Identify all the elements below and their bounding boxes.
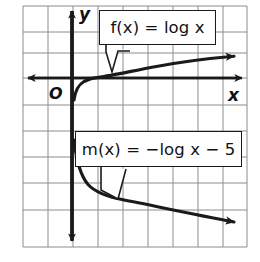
callout-m-of-x: m(x) = −log x − 5 [75,131,242,167]
log-function-figure: y x O f(x) = log x m(x) = −log x − 5 [0,0,260,262]
leader-line-f [106,45,130,72]
origin-label: O [49,84,63,103]
x-axis-label: x [227,85,240,105]
callout-f-label: f(x) = log x [110,18,204,37]
callout-m-label: m(x) = −log x − 5 [82,140,236,159]
callout-f-of-x: f(x) = log x [99,10,216,45]
y-axis-label: y [79,4,91,24]
